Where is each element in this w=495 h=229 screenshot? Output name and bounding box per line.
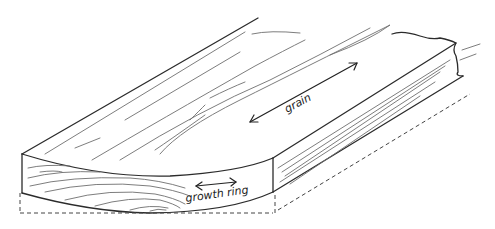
reference-dashed-diagonal [278,94,470,210]
growth-ring-label: growth ring [185,183,250,205]
board-top-back-edge [22,18,258,154]
board-drawing: grain growth ring [0,0,495,229]
end-growth-rings [28,165,190,211]
grain-label: grain [282,91,313,116]
board-broken-end [392,32,463,76]
wood-board-diagram: grain growth ring [0,0,495,229]
side-grain-lines [278,44,480,184]
